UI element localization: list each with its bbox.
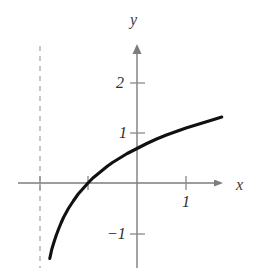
y-axis-label: y: [130, 12, 137, 28]
x-tick-label-1: 1: [182, 194, 190, 210]
y-tick-label-2: 2: [116, 75, 124, 91]
y-tick-label-1: 1: [119, 125, 127, 141]
x-axis-label: x: [236, 177, 243, 193]
y-axis-arrowhead: [133, 44, 142, 54]
graph-figure: y x 2 1 −1 1: [0, 0, 254, 268]
y-tick-label-minus-1: −1: [107, 226, 126, 242]
log-curve: [50, 117, 222, 259]
plot-canvas: [0, 0, 254, 268]
